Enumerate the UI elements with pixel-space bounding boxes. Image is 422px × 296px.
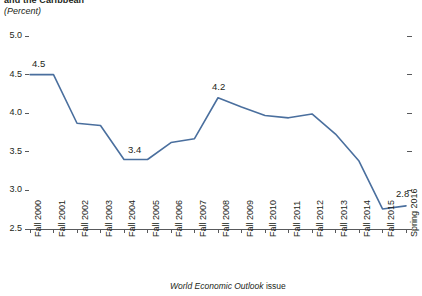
x-axis-tick-label: Fall 2003 <box>105 200 114 237</box>
x-axis-tick-label: Fall 2012 <box>316 200 325 237</box>
y-axis-tick-label: 3.0 <box>0 185 22 194</box>
plot-area <box>0 0 422 296</box>
x-axis-tick-label: Fall 2006 <box>175 200 184 237</box>
x-axis-tick-label: Fall 2011 <box>293 201 302 237</box>
data-point-label: 3.4 <box>128 145 141 155</box>
plot-svg <box>0 0 422 296</box>
x-axis-tick-label: Fall 2013 <box>340 200 349 237</box>
x-axis-tick-label: Fall 2014 <box>363 200 372 237</box>
chart-figure: and the Caribbean (Percent) 5.04.54.03.5… <box>0 0 422 296</box>
x-axis-tick-label: Fall 2007 <box>199 200 208 237</box>
data-point-label: 4.5 <box>32 59 45 69</box>
data-series-line <box>30 75 406 209</box>
x-axis-tick-label: Fall 2008 <box>222 200 231 237</box>
x-axis-tick-label: Fall 2005 <box>152 200 161 237</box>
y-axis-tick-label: 3.5 <box>0 147 22 156</box>
x-axis-tick-label: Fall 2001 <box>58 200 67 237</box>
x-axis-tick-label: Fall 2010 <box>269 200 278 237</box>
y-axis-tick-label: 4.5 <box>0 70 22 79</box>
x-axis-caption: World Economic Outlook issue <box>170 281 286 291</box>
x-axis-tick-label: Fall 2004 <box>128 200 137 237</box>
data-point-label: 4.2 <box>212 82 225 92</box>
x-axis-tick-label: Fall 2002 <box>81 200 90 237</box>
y-axis-tick-label: 2.5 <box>0 224 22 233</box>
x-axis-caption-italic: World Economic Outlook <box>170 281 264 291</box>
x-axis-tick-label: Fall 2015 <box>387 200 396 237</box>
data-point-label: 2.8 <box>396 189 409 199</box>
y-axis-tick-label: 4.0 <box>0 108 22 117</box>
x-axis-caption-rest: issue <box>264 281 286 291</box>
y-axis-tick-label: 5.0 <box>0 31 22 40</box>
x-axis-tick-label: Spring 2016 <box>410 188 419 237</box>
x-axis-tick-label: Fall 2009 <box>246 200 255 237</box>
x-axis-tick-label: Fall 2000 <box>34 200 43 237</box>
